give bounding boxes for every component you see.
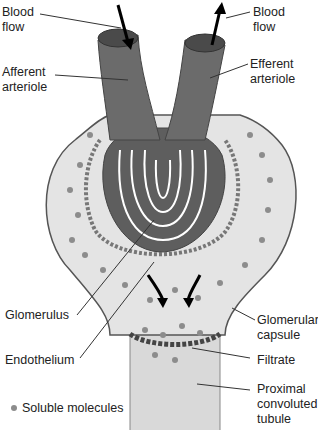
proximal-tubule-shape bbox=[130, 330, 220, 430]
renal-corpuscle-diagram: Blood flow Blood flow Afferent arteriole… bbox=[0, 0, 318, 430]
label-endothelium: Endothelium bbox=[5, 353, 75, 368]
label-blood-flow-in: Blood flow bbox=[2, 5, 34, 35]
label-efferent-arteriole: Efferent arteriole bbox=[250, 57, 295, 87]
label-proximal-convoluted-tubule: Proximal convoluted tubule bbox=[257, 382, 317, 427]
legend-soluble-molecules: Soluble molecules bbox=[22, 401, 123, 416]
label-afferent-arteriole: Afferent arteriole bbox=[2, 65, 47, 95]
label-glomerular-capsule: Glomerular capsule bbox=[257, 313, 318, 343]
label-filtrate: Filtrate bbox=[257, 353, 295, 368]
label-blood-flow-out: Blood flow bbox=[253, 5, 285, 35]
label-glomerulus: Glomerulus bbox=[5, 308, 69, 323]
